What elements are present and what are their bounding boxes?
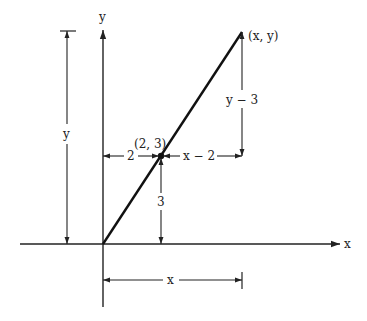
dimension-y-minus-3-label: y − 3 [225, 93, 258, 107]
diagram-svg: x y (2, 3) (x, y) y x 2 3 x − 2 y − 3 [0, 0, 367, 321]
dimension-3-label: 3 [157, 195, 165, 209]
point-x-y-label: (x, y) [248, 29, 279, 43]
diagram-canvas: x y (2, 3) (x, y) y x 2 3 x − 2 y − 3 [0, 0, 367, 321]
x-axis-label: x [344, 237, 351, 251]
dimension-y-label: y [62, 127, 70, 141]
y-axis-label: y [98, 10, 106, 24]
point-2-3-label: (2, 3) [134, 137, 166, 151]
line-through-origin [103, 32, 242, 244]
dimension-x-minus-2-label: x − 2 [183, 149, 215, 163]
dimension-x-label: x [167, 273, 174, 287]
dimension-2-label: 2 [127, 149, 135, 163]
